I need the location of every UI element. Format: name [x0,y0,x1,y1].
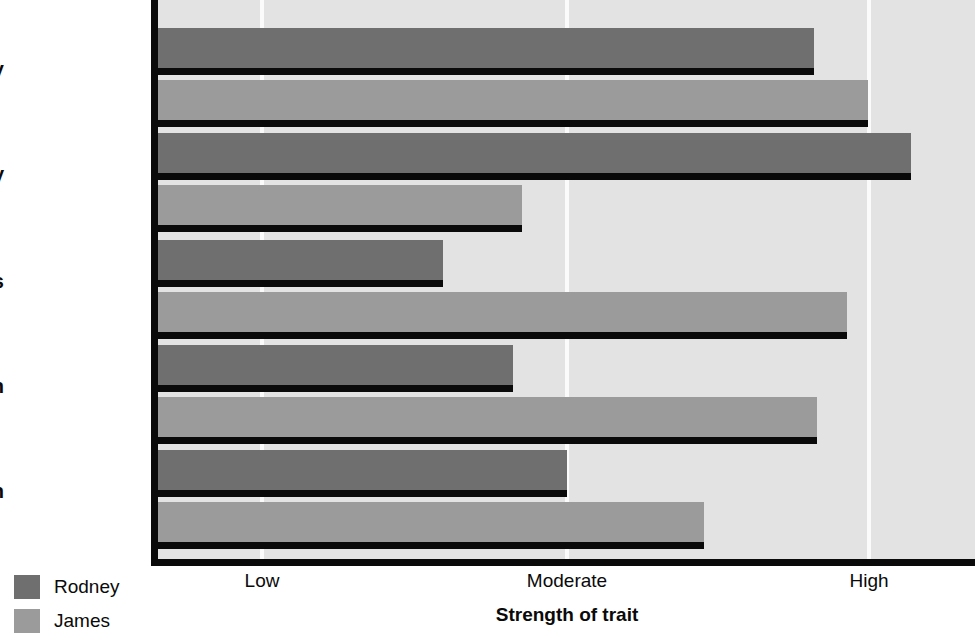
bar-baseline-industry-james [157,120,868,127]
bar-baseline-nervousness-rodney [157,280,443,287]
tick-label-moderate: Moderate [477,570,657,592]
legend-swatch-james [14,609,40,633]
bar-baseline-extraversion-james [157,437,817,444]
bar-baseline-nervousness-james [157,332,847,339]
legend-label-james: James [54,610,110,632]
bar-baseline-aggression-rodney [157,490,567,497]
tick-label-high: High [779,570,959,592]
legend: Rodney James [14,570,120,638]
category-label-nervousness: Nervousness [0,270,4,293]
bar-nervousness-rodney[interactable] [157,240,443,280]
x-axis-line [151,559,975,566]
bar-aggression-james[interactable] [157,502,704,542]
bar-baseline-aggression-james [157,542,704,549]
bar-baseline-generosity-james [157,225,522,232]
bar-industry-james[interactable] [157,80,868,120]
category-label-industry: Industry [0,58,4,81]
bar-nervousness-james[interactable] [157,292,847,332]
legend-swatch-rodney [14,575,40,599]
legend-item-rodney[interactable]: Rodney [14,570,120,604]
tick-label-low: Low [172,570,352,592]
bar-chart: IndustryGenerosityNervousnessExtraversio… [0,0,975,642]
legend-label-rodney: Rodney [54,576,120,598]
plot-area [157,0,975,562]
bar-generosity-james[interactable] [157,185,522,225]
bar-aggression-rodney[interactable] [157,450,567,490]
bar-industry-rodney[interactable] [157,28,814,68]
legend-item-james[interactable]: James [14,604,120,638]
category-label-aggression: Aggression [0,480,4,503]
x-axis-title: Strength of trait [417,604,717,626]
bar-baseline-extraversion-rodney [157,385,513,392]
bar-generosity-rodney[interactable] [157,133,911,173]
bar-extraversion-rodney[interactable] [157,345,513,385]
bar-baseline-generosity-rodney [157,173,911,180]
category-label-extraversion: Extraversion [0,375,4,398]
category-label-generosity: Generosity [0,163,4,186]
bar-extraversion-james[interactable] [157,397,817,437]
y-axis-line [151,0,158,566]
bar-baseline-industry-rodney [157,68,814,75]
